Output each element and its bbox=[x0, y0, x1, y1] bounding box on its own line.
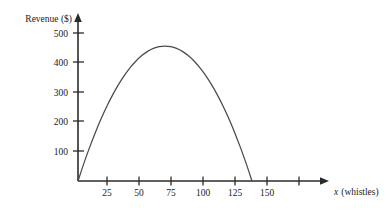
x-tick-label-100: 100 bbox=[196, 188, 211, 198]
x-axis-title-unit: (whistles) bbox=[341, 187, 378, 198]
y-axis-arrow-icon bbox=[74, 13, 82, 22]
y-axis-title: Revenue ($) bbox=[25, 14, 72, 25]
revenue-parabola-chart: 500 400 300 200 100 25 50 75 100 125 150… bbox=[0, 0, 392, 212]
x-tick-label-50: 50 bbox=[134, 188, 144, 198]
x-tick-label-75: 75 bbox=[166, 188, 176, 198]
x-tick-label-150: 150 bbox=[260, 188, 275, 198]
x-tick-label-25: 25 bbox=[102, 188, 112, 198]
y-tick-label-200: 200 bbox=[54, 117, 69, 127]
x-tick-labels: 25 50 75 100 125 150 bbox=[102, 188, 274, 198]
y-tick-label-500: 500 bbox=[54, 29, 69, 39]
y-tick-label-100: 100 bbox=[54, 147, 69, 157]
chart-screenshot: 500 400 300 200 100 25 50 75 100 125 150… bbox=[0, 0, 392, 212]
x-axis-title: x(whistles) bbox=[333, 187, 379, 198]
x-tick-label-125: 125 bbox=[228, 188, 243, 198]
x-axis-arrow-icon bbox=[320, 177, 329, 185]
y-tick-labels: 500 400 300 200 100 bbox=[54, 29, 69, 157]
y-tick-label-400: 400 bbox=[54, 58, 69, 68]
x-axis-title-variable: x bbox=[333, 187, 339, 197]
y-tick-label-300: 300 bbox=[54, 88, 69, 98]
revenue-curve bbox=[78, 46, 252, 181]
